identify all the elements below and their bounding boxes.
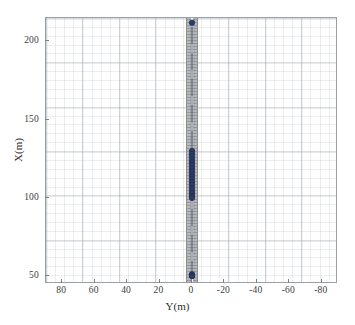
y-tick-label: 150 (8, 114, 39, 124)
x-tick-label: -60 (282, 285, 295, 295)
x-tick-label: -80 (314, 285, 327, 295)
y-tick-mark (45, 40, 49, 41)
y-tick-label: 100 (8, 192, 39, 202)
figure-canvas: 806040200-20-40-60-80 50100150200 Y(m) X… (0, 0, 355, 325)
x-tick-mark (94, 279, 95, 283)
x-tick-mark (256, 279, 257, 283)
x-tick-mark (223, 279, 224, 283)
x-tick-label: 60 (89, 285, 99, 295)
x-tick-mark (288, 279, 289, 283)
y-tick-mark (45, 275, 49, 276)
x-tick-label: -40 (249, 285, 262, 295)
x-tick-mark (159, 279, 160, 283)
trajectory-point (189, 195, 194, 200)
y-tick-label: 200 (8, 35, 39, 45)
x-tick-mark (61, 279, 62, 283)
x-tick-label: 80 (56, 285, 66, 295)
trajectory-plot (46, 18, 337, 283)
x-tick-mark (321, 279, 322, 283)
y-tick-mark (45, 197, 49, 198)
y-axis-label: X(m) (12, 138, 24, 162)
x-tick-mark (126, 279, 127, 283)
x-tick-label: 0 (189, 285, 194, 295)
trajectory-point (189, 20, 194, 25)
y-tick-label: 50 (8, 270, 39, 280)
plot-area (45, 17, 337, 283)
x-axis-label: Y(m) (0, 300, 355, 312)
x-tick-mark (191, 279, 192, 283)
x-tick-label: 20 (154, 285, 164, 295)
x-tick-label: -20 (217, 285, 230, 295)
y-tick-mark (45, 119, 49, 120)
x-tick-label: 40 (121, 285, 131, 295)
